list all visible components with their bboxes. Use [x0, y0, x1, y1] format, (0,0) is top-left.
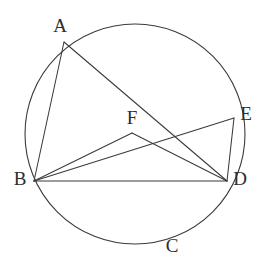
diagram-canvas: A B C D E F [0, 0, 267, 271]
vertex-label-a: A [53, 15, 67, 36]
vertex-label-d: D [233, 168, 247, 189]
segment-bf [34, 133, 132, 181]
vertex-label-f: F [127, 107, 138, 128]
vertex-label-group: A B C D E F [14, 15, 252, 256]
geometry-diagram: A B C D E F [0, 0, 267, 271]
vertex-label-b: B [14, 168, 27, 189]
segment-ad [64, 42, 227, 181]
vertex-label-c: C [166, 235, 179, 256]
segment-ab [34, 42, 64, 181]
vertex-label-e: E [240, 103, 252, 124]
